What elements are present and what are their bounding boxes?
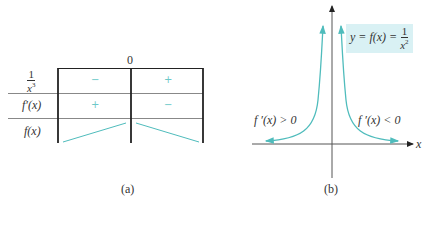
sign-plus: +: [91, 99, 99, 110]
sign-minus: −: [164, 99, 172, 110]
sign-plus: +: [164, 74, 172, 85]
row-label-derivative: f′(x): [22, 98, 41, 113]
decreasing-segment: [136, 123, 199, 142]
critical-point-label: 0: [127, 53, 133, 68]
sign-minus: −: [91, 74, 99, 85]
caption-b: (b): [324, 182, 338, 197]
increasing-segment: [63, 123, 126, 142]
x-axis-label: x: [416, 137, 421, 152]
row-label-function: f(x): [24, 124, 41, 139]
equation-label: y = f(x) = 1 x2: [346, 24, 413, 53]
caption-a: (a): [121, 182, 134, 197]
row-label-reciprocal-cube: 1 x3: [27, 69, 35, 94]
right-derivative-annotation: f ′(x) < 0: [358, 113, 400, 128]
left-derivative-annotation: f ′(x) > 0: [254, 113, 296, 128]
